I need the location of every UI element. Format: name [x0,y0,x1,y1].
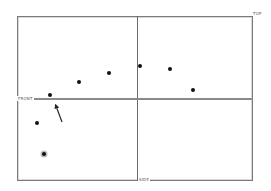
arrow-icon [0,0,271,191]
